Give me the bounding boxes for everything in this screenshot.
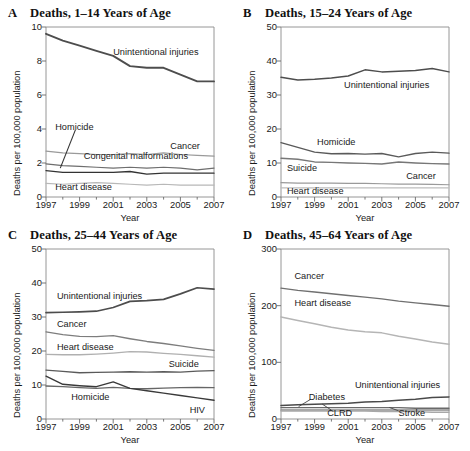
panel-d-xlabel: Year bbox=[281, 434, 449, 445]
y-tick-label: 30 bbox=[2, 312, 42, 321]
series-label-heart-disease: Heart disease bbox=[57, 343, 114, 352]
series-line-unintentional-injuries bbox=[281, 68, 449, 80]
series-label-suicide: Suicide bbox=[287, 164, 317, 173]
panel-b-letter: B bbox=[235, 6, 265, 21]
x-tick-label: 2005 bbox=[398, 422, 432, 431]
series-line-cancer bbox=[281, 183, 449, 185]
series-label-cancer: Cancer bbox=[170, 142, 200, 151]
x-tick-label: 1997 bbox=[29, 422, 63, 431]
x-tick-label: 1999 bbox=[298, 422, 332, 431]
y-tick-label: 200 bbox=[237, 301, 277, 310]
x-tick-label: 2003 bbox=[130, 200, 164, 209]
panel-c-xlabel: Year bbox=[46, 434, 214, 445]
panel-d: DDeaths, 45–64 Years of Age Deaths per 1… bbox=[235, 222, 470, 448]
series-line-unintentional-injuries bbox=[281, 397, 449, 406]
x-tick-label: 2007 bbox=[432, 422, 466, 431]
x-tick-label: 1997 bbox=[29, 200, 63, 209]
x-tick-label: 2003 bbox=[130, 422, 164, 431]
series-label-heart-disease: Heart disease bbox=[55, 183, 112, 192]
x-tick-label: 2007 bbox=[432, 200, 466, 209]
x-tick-label: 2001 bbox=[96, 422, 130, 431]
x-tick-label: 2007 bbox=[197, 422, 231, 431]
y-tick-label: 10 bbox=[2, 380, 42, 389]
x-tick-label: 2007 bbox=[197, 200, 231, 209]
series-label-hiv: HIV bbox=[190, 406, 205, 415]
series-line-homicide bbox=[46, 171, 214, 174]
series-line-homicide bbox=[281, 143, 449, 157]
panel-d-yticks: 0100200300 bbox=[235, 249, 277, 419]
x-tick-label: 2001 bbox=[96, 200, 130, 209]
series-line-suicide bbox=[46, 370, 214, 373]
x-tick-label: 2003 bbox=[365, 200, 399, 209]
x-tick-label: 1999 bbox=[63, 200, 97, 209]
panel-b: BDeaths, 15–24 Years of Age Deaths per 1… bbox=[235, 0, 470, 226]
panel-b-yticks: 01020304050 bbox=[235, 27, 277, 197]
panel-b-title-text: Deaths, 15–24 Years of Age bbox=[265, 6, 412, 21]
panel-a-title-text: Deaths, 1–14 Years of Age bbox=[30, 6, 171, 21]
panel-a: ADeaths, 1–14 Years of Age Deaths per 10… bbox=[0, 0, 235, 226]
series-label-unintentional-injuries: Unintentional injuries bbox=[344, 81, 429, 90]
series-label-cancer: Cancer bbox=[406, 172, 436, 181]
x-tick-label: 1997 bbox=[264, 200, 298, 209]
panel-a-letter: A bbox=[0, 6, 30, 21]
panel-a-title: ADeaths, 1–14 Years of Age bbox=[0, 6, 235, 21]
series-line-heart-disease bbox=[281, 317, 449, 344]
y-tick-label: 20 bbox=[2, 346, 42, 355]
y-tick-label: 30 bbox=[237, 90, 277, 99]
series-label-heart-disease: Heart disease bbox=[294, 299, 351, 308]
series-label-cancer: Cancer bbox=[294, 272, 324, 281]
y-tick-label: 50 bbox=[237, 22, 277, 31]
panel-d-letter: D bbox=[235, 228, 265, 243]
y-tick-label: 300 bbox=[237, 244, 277, 253]
x-tick-label: 2003 bbox=[365, 422, 399, 431]
panel-c-letter: C bbox=[0, 228, 30, 243]
y-tick-label: 4 bbox=[2, 124, 42, 133]
x-tick-label: 2005 bbox=[163, 200, 197, 209]
y-tick-label: 8 bbox=[2, 56, 42, 65]
series-label-unintentional-injuries: Unintentional injuries bbox=[57, 292, 142, 301]
panel-c: CDeaths, 25–44 Years of Age Deaths per 1… bbox=[0, 222, 235, 448]
x-tick-label: 2001 bbox=[331, 422, 365, 431]
y-tick-label: 20 bbox=[237, 124, 277, 133]
panel-a-yticks: 0246810 bbox=[0, 27, 42, 197]
x-tick-label: 2005 bbox=[398, 200, 432, 209]
y-tick-label: 6 bbox=[2, 90, 42, 99]
series-label-diabetes: Diabetes bbox=[309, 393, 345, 402]
panel-d-title: DDeaths, 45–64 Years of Age bbox=[235, 228, 470, 243]
x-tick-label: 1997 bbox=[264, 422, 298, 431]
series-label-homicide: Homicide bbox=[71, 393, 109, 402]
y-tick-label: 2 bbox=[2, 158, 42, 167]
series-line-congenital-malformations bbox=[46, 164, 214, 170]
series-label-homicide: Homicide bbox=[317, 138, 355, 147]
series-label-congenital-malformations: Congenital malformations bbox=[84, 152, 188, 161]
y-tick-label: 100 bbox=[237, 357, 277, 366]
series-label-heart-disease: Heart disease bbox=[287, 187, 344, 196]
y-tick-label: 10 bbox=[237, 158, 277, 167]
label-leader-line bbox=[60, 130, 75, 168]
panel-c-title-text: Deaths, 25–44 Years of Age bbox=[30, 228, 177, 243]
y-tick-label: 50 bbox=[2, 244, 42, 253]
series-label-clrd: CLRD bbox=[327, 409, 352, 418]
x-tick-label: 1999 bbox=[63, 422, 97, 431]
panel-b-title: BDeaths, 15–24 Years of Age bbox=[235, 6, 470, 21]
series-line-unintentional-injuries bbox=[46, 34, 214, 82]
y-tick-label: 40 bbox=[237, 56, 277, 65]
x-tick-label: 2001 bbox=[331, 200, 365, 209]
x-tick-label: 2005 bbox=[163, 422, 197, 431]
series-label-unintentional-injuries: Unintentional injuries bbox=[355, 381, 440, 390]
x-tick-label: 1999 bbox=[298, 200, 332, 209]
series-label-cancer: Cancer bbox=[57, 320, 87, 329]
y-tick-label: 10 bbox=[2, 22, 42, 31]
series-label-stroke: Stroke bbox=[399, 409, 426, 418]
panel-c-title: CDeaths, 25–44 Years of Age bbox=[0, 228, 235, 243]
series-label-homicide: Homicide bbox=[55, 123, 93, 132]
panel-d-title-text: Deaths, 45–64 Years of Age bbox=[265, 228, 412, 243]
mortality-figure: ADeaths, 1–14 Years of Age Deaths per 10… bbox=[0, 0, 470, 451]
series-label-unintentional-injuries: Unintentional injuries bbox=[113, 48, 198, 57]
panel-c-yticks: 01020304050 bbox=[0, 249, 42, 419]
y-tick-label: 40 bbox=[2, 278, 42, 287]
series-label-suicide: Suicide bbox=[169, 360, 199, 369]
